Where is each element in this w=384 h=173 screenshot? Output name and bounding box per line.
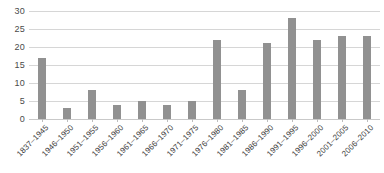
- x-axis-tick: [217, 119, 218, 122]
- bar: [113, 105, 121, 119]
- bar: [263, 43, 271, 119]
- bar: [88, 90, 96, 119]
- x-axis-labels: 1837–19451946–19501951–19551956–19601961…: [29, 123, 380, 173]
- y-axis-tick-label: 10: [15, 78, 25, 88]
- x-axis-tick: [92, 119, 93, 122]
- plot-area: [29, 11, 380, 119]
- x-axis-tick-label: 1961–1965: [103, 123, 150, 170]
- x-axis-tick: [67, 119, 68, 122]
- x-axis-tick: [292, 119, 293, 122]
- x-axis-tick: [142, 119, 143, 122]
- y-axis-tick-label: 30: [15, 6, 25, 16]
- y-axis-tick-label: 0: [20, 114, 25, 124]
- y-axis-tick-label: 15: [15, 60, 25, 70]
- bar-series: [29, 11, 380, 119]
- x-axis-tick-label: 1837–1945: [3, 123, 50, 170]
- y-axis-tick-label: 20: [15, 42, 25, 52]
- x-axis-tick: [317, 119, 318, 122]
- x-axis-tick-label: 1951–1955: [53, 123, 100, 170]
- y-axis-tick-label: 25: [15, 24, 25, 34]
- x-axis-tick: [167, 119, 168, 122]
- x-axis-tick: [242, 119, 243, 122]
- x-axis-tick: [267, 119, 268, 122]
- bar: [163, 105, 171, 119]
- bar: [338, 36, 346, 119]
- bar: [313, 40, 321, 119]
- x-axis-tick: [192, 119, 193, 122]
- bar-chart: 051015202530 1837–19451946–19501951–1955…: [0, 0, 384, 173]
- x-axis-tick-label: 1946–1950: [28, 123, 75, 170]
- x-axis-tick: [342, 119, 343, 122]
- bar: [213, 40, 221, 119]
- x-axis-tick-label: 1956–1960: [78, 123, 125, 170]
- bar: [63, 108, 71, 119]
- bar: [238, 90, 246, 119]
- y-axis-tick-label: 5: [20, 96, 25, 106]
- bar: [138, 101, 146, 119]
- x-axis-tick: [42, 119, 43, 122]
- bar: [188, 101, 196, 119]
- bar: [288, 18, 296, 119]
- x-axis-tick: [367, 119, 368, 122]
- x-axis-tick: [117, 119, 118, 122]
- y-axis-labels: 051015202530: [0, 11, 25, 119]
- bar: [363, 36, 371, 119]
- bar: [38, 58, 46, 119]
